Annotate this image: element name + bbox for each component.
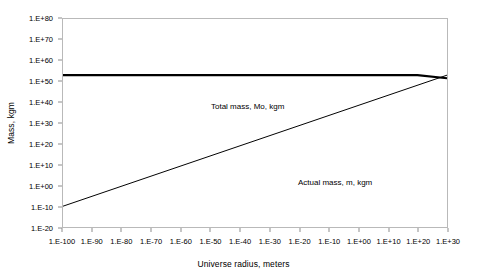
y-tick-label: 1.E+50 — [29, 77, 53, 86]
x-tick-mark — [210, 228, 211, 232]
x-tick-label: 1.E-40 — [229, 237, 251, 246]
x-axis-tick-labels: 1.E-1001.E-901.E-801.E-701.E-601.E-501.E… — [0, 228, 487, 258]
x-tick-label: 1.E-50 — [199, 237, 221, 246]
x-tick-mark — [91, 228, 92, 232]
x-tick-mark — [358, 228, 359, 232]
series-annotation-total-mass: Total mass, Mo, kgm — [211, 102, 284, 112]
y-tick-label: 1.E+60 — [29, 56, 53, 65]
x-axis-title: Universe radius, meters — [0, 259, 487, 269]
x-tick-mark — [448, 228, 449, 232]
x-tick-mark — [388, 228, 389, 232]
series-line-actual-mass — [63, 75, 447, 206]
y-tick-label: 1.E+10 — [29, 161, 53, 170]
x-tick-label: 1.E-30 — [259, 237, 281, 246]
x-tick-label: 1.E-100 — [49, 237, 75, 246]
y-tick-label: 1.E+30 — [29, 119, 53, 128]
series-line-total-mass — [63, 75, 447, 78]
y-tick-label: 1.E+70 — [29, 35, 53, 44]
y-tick-label: 1.E+00 — [29, 182, 53, 191]
x-tick-mark — [121, 228, 122, 232]
x-tick-mark — [240, 228, 241, 232]
x-tick-mark — [299, 228, 300, 232]
x-tick-label: 1.E-70 — [140, 237, 162, 246]
plot-area: Total mass, Mo, kgm Actual mass, m, kgm — [62, 18, 448, 228]
x-tick-label: 1.E+30 — [436, 237, 460, 246]
y-tick-label: 1.E+80 — [29, 14, 53, 23]
x-tick-mark — [269, 228, 270, 232]
x-tick-mark — [418, 228, 419, 232]
x-tick-label: 1.E-10 — [318, 237, 340, 246]
x-tick-mark — [180, 228, 181, 232]
x-tick-label: 1.E-90 — [81, 237, 103, 246]
x-tick-label: 1.E+10 — [377, 237, 401, 246]
y-tick-label: 1.E-10 — [31, 203, 53, 212]
x-tick-label: 1.E-20 — [288, 237, 310, 246]
chart-container: Mass, kgm 1.E+801.E+701.E+601.E+501.E+40… — [0, 0, 487, 280]
x-tick-label: 1.E+00 — [347, 237, 371, 246]
x-tick-mark — [62, 228, 63, 232]
x-tick-mark — [329, 228, 330, 232]
y-tick-label: 1.E+40 — [29, 98, 53, 107]
y-tick-label: 1.E+20 — [29, 140, 53, 149]
x-tick-label: 1.E-60 — [170, 237, 192, 246]
x-tick-label: 1.E-80 — [110, 237, 132, 246]
x-axis-title-text: Universe radius, meters — [197, 259, 289, 269]
x-tick-label: 1.E+20 — [406, 237, 430, 246]
series-annotation-actual-mass: Actual mass, m, kgm — [298, 178, 372, 188]
series-layer — [63, 19, 447, 227]
x-tick-mark — [151, 228, 152, 232]
